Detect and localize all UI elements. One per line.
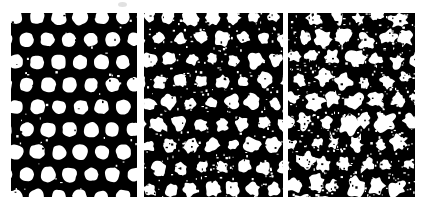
speckle-noise	[229, 112, 231, 113]
speckle-noise	[331, 114, 333, 115]
speckle-noise	[21, 120, 22, 121]
speckle-noise	[351, 122, 353, 123]
speckle-noise	[260, 22, 261, 24]
speckle-noise	[173, 20, 175, 22]
speckle-noise	[130, 20, 132, 22]
speckle-noise	[228, 79, 229, 81]
speckle-noise	[207, 111, 209, 112]
speckle-noise	[293, 194, 295, 196]
speckle-noise	[376, 65, 377, 68]
dot-lattice-graphic	[288, 13, 415, 197]
speckle-noise	[333, 93, 335, 94]
speckle-noise	[172, 118, 173, 120]
speckle-noise	[116, 165, 118, 167]
speckle-noise	[295, 141, 296, 142]
speckle-noise	[308, 158, 310, 160]
speckle-noise	[401, 144, 403, 146]
speckle-noise	[382, 100, 383, 101]
speckle-noise	[91, 46, 93, 48]
speckle-noise	[362, 29, 364, 31]
speckle-noise	[265, 164, 267, 167]
speckle-noise	[323, 84, 325, 85]
speckle-noise	[190, 98, 192, 100]
speckle-noise	[296, 65, 299, 66]
speckle-noise	[346, 85, 348, 86]
speckle-noise	[329, 63, 331, 64]
speckle-noise	[279, 57, 281, 58]
speckle-noise	[413, 94, 415, 95]
speckle-noise	[314, 81, 316, 82]
speckle-noise	[307, 32, 308, 34]
speckle-noise	[158, 166, 159, 167]
speckle-noise	[118, 156, 120, 158]
speckle-noise	[163, 78, 165, 80]
speckle-noise	[25, 72, 27, 74]
speckle-noise	[347, 35, 348, 36]
speckle-noise	[375, 18, 377, 20]
speckle-noise	[323, 80, 324, 82]
speckle-noise	[370, 142, 373, 144]
speckle-noise	[252, 178, 254, 180]
speckle-noise	[20, 143, 21, 145]
lattice-dot	[127, 123, 137, 136]
speckle-noise	[272, 131, 274, 132]
speckle-noise	[334, 76, 335, 78]
speckle-noise	[381, 72, 383, 73]
speckle-noise	[395, 88, 396, 90]
speckle-noise	[313, 115, 314, 117]
speckle-noise	[233, 157, 234, 158]
speckle-noise	[392, 143, 395, 144]
speckle-noise	[160, 114, 162, 116]
speckle-noise	[150, 79, 151, 80]
speckle-noise	[304, 65, 306, 66]
speckle-noise	[355, 52, 357, 54]
speckle-noise	[218, 171, 220, 173]
speckle-noise	[407, 76, 409, 78]
speckle-noise	[335, 13, 336, 15]
speckle-noise	[380, 185, 382, 187]
speckle-noise	[306, 107, 308, 109]
speckle-noise	[197, 190, 199, 193]
speckle-noise	[321, 143, 323, 145]
speckle-noise	[215, 186, 217, 188]
speckle-noise	[381, 13, 383, 15]
speckle-noise	[149, 29, 151, 30]
speckle-noise	[177, 108, 178, 111]
speckle-noise	[356, 65, 359, 67]
speckle-noise	[185, 142, 187, 143]
speckle-noise	[331, 193, 333, 195]
speckle-noise	[413, 191, 414, 193]
speckle-noise	[191, 41, 194, 42]
speckle-noise	[361, 122, 363, 125]
speckle-noise	[207, 132, 209, 133]
speckle-noise	[313, 147, 315, 149]
speckle-noise	[383, 115, 385, 116]
speckle-noise	[382, 67, 383, 68]
speckle-noise	[116, 125, 117, 128]
speckle-noise	[358, 113, 360, 115]
speckle-noise	[31, 62, 33, 64]
speckle-noise	[120, 27, 122, 29]
speckle-noise	[354, 157, 355, 160]
speckle-noise	[278, 34, 280, 36]
speckle-noise	[183, 147, 184, 149]
speckle-noise	[278, 64, 279, 66]
speckle-noise	[118, 62, 119, 64]
speckle-noise	[24, 189, 25, 190]
speckle-noise	[183, 16, 185, 18]
speckle-noise	[179, 54, 180, 55]
speckle-noise	[334, 129, 336, 131]
speckle-noise	[338, 112, 339, 114]
speckle-noise	[322, 190, 325, 192]
speckle-noise	[252, 62, 254, 63]
speckle-noise	[333, 150, 335, 152]
speckle-noise	[392, 174, 393, 175]
speckle-noise	[334, 112, 335, 114]
speckle-noise	[261, 185, 262, 187]
speckle-noise	[154, 48, 156, 49]
speckle-noise	[220, 118, 221, 120]
speckle-noise	[173, 85, 176, 87]
speckle-noise	[290, 50, 292, 51]
speckle-noise	[152, 93, 153, 94]
speckle-noise	[46, 139, 48, 141]
